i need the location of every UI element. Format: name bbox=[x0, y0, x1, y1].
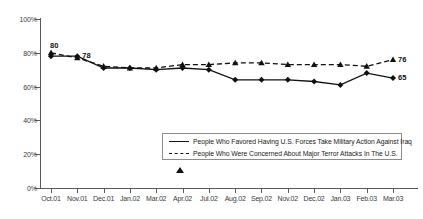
chart-legend: People Who Favored Having U.S. Forces Ta… bbox=[162, 133, 402, 160]
x-tick bbox=[340, 189, 341, 193]
x-tick-label: Nov.02 bbox=[278, 195, 298, 202]
chart-container: 0%20%40%60%80%100% Oct.01Nov.01Dec.01Jan… bbox=[0, 0, 423, 219]
data-point-marker bbox=[127, 65, 133, 71]
data-point-marker bbox=[153, 67, 159, 73]
y-axis-line bbox=[40, 18, 41, 189]
x-tick-label: Dec.01 bbox=[93, 195, 114, 202]
point-value-label: 80 bbox=[50, 41, 58, 50]
data-point-marker bbox=[232, 60, 238, 66]
x-tick-label: Feb.03 bbox=[356, 195, 377, 202]
data-point-marker bbox=[285, 61, 291, 67]
data-point-marker bbox=[311, 61, 317, 67]
data-point-marker bbox=[74, 55, 80, 61]
x-tick-label: Nov.01 bbox=[67, 195, 87, 202]
x-tick-label: Jan.02 bbox=[120, 195, 140, 202]
y-tick-label: 100% bbox=[19, 16, 37, 23]
x-tick bbox=[235, 189, 236, 193]
data-point-marker bbox=[364, 70, 370, 76]
data-point-marker bbox=[390, 56, 396, 62]
x-tick bbox=[288, 189, 289, 193]
legend-label-favored: People Who Favored Having U.S. Forces Ta… bbox=[193, 138, 412, 145]
legend-key-diamond-icon bbox=[169, 136, 189, 146]
legend-label-concerned: People Who Were Concerned About Major Te… bbox=[193, 150, 398, 157]
x-tick-label: Jan.03 bbox=[330, 195, 350, 202]
y-tick-label: 80% bbox=[23, 49, 37, 56]
data-point-marker bbox=[127, 65, 133, 71]
x-tick-label: Oct.01 bbox=[41, 195, 60, 202]
data-point-marker bbox=[285, 77, 291, 83]
data-point-marker bbox=[100, 63, 106, 69]
data-point-marker bbox=[390, 75, 396, 81]
y-tick-label: 60% bbox=[23, 83, 37, 90]
data-point-marker bbox=[180, 65, 186, 71]
x-tick-label: Apr.02 bbox=[173, 195, 192, 202]
data-point-marker bbox=[337, 61, 343, 67]
data-point-marker bbox=[179, 61, 185, 67]
data-point-marker bbox=[311, 79, 317, 85]
point-value-label: 78 bbox=[82, 51, 90, 60]
x-tick-label: Sep.02 bbox=[251, 195, 272, 202]
data-point-marker bbox=[153, 65, 159, 71]
data-point-marker bbox=[101, 65, 107, 71]
x-tick-label: Aug.02 bbox=[225, 195, 246, 202]
data-point-marker bbox=[48, 53, 54, 59]
legend-item-concerned[interactable]: People Who Were Concerned About Major Te… bbox=[169, 147, 398, 159]
x-tick-label: Dec.02 bbox=[304, 195, 325, 202]
point-value-label: 65 bbox=[398, 73, 406, 82]
data-point-marker bbox=[48, 50, 54, 56]
series-line-1 bbox=[51, 53, 393, 68]
data-point-marker bbox=[259, 77, 265, 83]
legend-item-favored[interactable]: People Who Favored Having U.S. Forces Ta… bbox=[169, 135, 412, 147]
x-tick-label: Mar.03 bbox=[383, 195, 403, 202]
data-point-marker bbox=[232, 77, 238, 83]
legend-key-triangle-icon bbox=[169, 148, 189, 158]
x-tick bbox=[156, 189, 157, 193]
data-point-marker bbox=[206, 67, 212, 73]
y-tick-label: 40% bbox=[23, 117, 37, 124]
x-axis-line bbox=[40, 188, 418, 189]
x-tick bbox=[130, 189, 131, 193]
x-tick bbox=[367, 189, 368, 193]
data-point-marker bbox=[258, 60, 264, 66]
data-point-marker bbox=[364, 63, 370, 69]
x-tick-label: Jul.02 bbox=[200, 195, 217, 202]
y-tick-label: 0% bbox=[27, 185, 37, 192]
x-tick bbox=[77, 189, 78, 193]
x-tick bbox=[183, 189, 184, 193]
x-tick bbox=[209, 189, 210, 193]
x-tick bbox=[51, 189, 52, 193]
data-point-marker bbox=[74, 53, 80, 59]
point-value-label: 76 bbox=[398, 55, 406, 64]
data-point-marker bbox=[206, 61, 212, 67]
series-line-0 bbox=[51, 56, 393, 85]
series-plot bbox=[0, 0, 423, 219]
x-tick bbox=[314, 189, 315, 193]
x-tick bbox=[261, 189, 262, 193]
x-tick bbox=[104, 189, 105, 193]
data-point-marker bbox=[337, 82, 343, 88]
x-tick-label: Mar.02 bbox=[146, 195, 166, 202]
x-tick bbox=[393, 189, 394, 193]
y-tick-label: 20% bbox=[23, 151, 37, 158]
